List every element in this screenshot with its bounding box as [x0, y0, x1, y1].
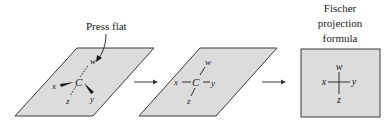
- stage1-x-label: x: [51, 81, 56, 91]
- stage2-z-label: z: [186, 96, 191, 106]
- arrow-right-icon: [134, 80, 158, 85]
- stage2-x-label: x: [173, 77, 178, 87]
- stage1-z-label: z: [65, 96, 70, 106]
- fischer-caption-line-2: projection: [318, 17, 363, 29]
- fischer-w-label: w: [336, 61, 343, 72]
- fischer-caption-line-3: formula: [323, 32, 358, 44]
- fischer-x-label: x: [321, 76, 327, 87]
- stage1-w-label: w: [90, 56, 96, 66]
- stage-2-flattened-plane: w C x y z: [139, 48, 277, 116]
- stage-1-tilted-plane: w C x y z: [15, 48, 154, 116]
- fischer-projection-diagram: w C x y z Press flat w C x y z Fischer p…: [0, 0, 387, 122]
- press-flat-caption: Press flat: [86, 20, 127, 32]
- fischer-caption-line-1: Fischer: [324, 2, 357, 14]
- arrow-right-icon: [262, 80, 286, 85]
- stage2-c-label: C: [192, 76, 200, 88]
- fischer-z-label: z: [336, 94, 341, 105]
- fischer-y-label: y: [351, 76, 357, 87]
- stage1-y-label: y: [89, 94, 94, 104]
- stage1-c-label: C: [75, 76, 83, 88]
- stage2-y-label: y: [210, 78, 215, 88]
- stage-3-fischer-projection: w x y z: [301, 49, 380, 117]
- stage2-w-label: w: [205, 57, 211, 67]
